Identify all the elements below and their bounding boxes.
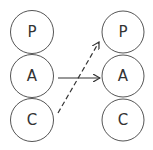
node-left-c: C (11, 99, 54, 142)
node-label: C (27, 111, 37, 129)
node-left-a: A (11, 55, 54, 98)
node-label: C (118, 111, 128, 129)
node-right-a: A (102, 55, 144, 97)
node-label: P (27, 23, 36, 41)
node-label: A (118, 67, 129, 85)
node-right-p: P (102, 11, 144, 53)
left-column: P A C (11, 11, 54, 142)
node-right-c: C (102, 99, 144, 141)
diagram-canvas: P A C P A C (0, 0, 153, 150)
node-label: A (27, 67, 38, 85)
edges (58, 42, 100, 113)
node-label: P (118, 23, 127, 41)
node-left-p: P (11, 11, 54, 54)
right-column: P A C (102, 11, 144, 141)
